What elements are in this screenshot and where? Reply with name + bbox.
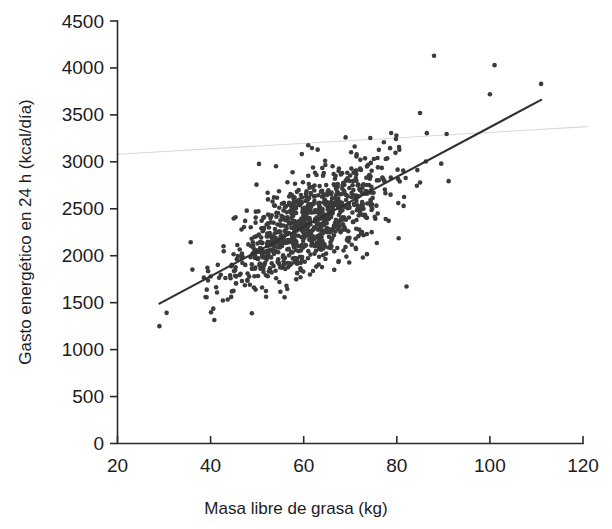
scatter-point xyxy=(285,217,290,222)
scatter-point xyxy=(397,145,402,150)
scatter-point xyxy=(404,284,409,289)
scatter-point xyxy=(253,215,258,220)
scatter-point xyxy=(306,173,311,178)
figure-scatter-plot: 050010001500200025003000350040004500 204… xyxy=(0,0,612,529)
scatter-point xyxy=(292,256,297,261)
scatter-point xyxy=(321,173,326,178)
scatter-point xyxy=(346,239,351,244)
scatter-point xyxy=(290,193,295,198)
scatter-point xyxy=(281,259,286,264)
scatter-point xyxy=(264,222,269,227)
scatter-point xyxy=(294,277,299,282)
scatter-point xyxy=(278,222,283,227)
scatter-point xyxy=(319,207,324,212)
scatter-point xyxy=(395,167,400,172)
scatter-point xyxy=(277,280,282,285)
scatter-point xyxy=(282,295,287,300)
scatter-point xyxy=(269,261,274,266)
scatter-point xyxy=(311,165,316,170)
scatter-point xyxy=(269,214,274,219)
scatter-point xyxy=(373,216,378,221)
scatter-point xyxy=(332,268,337,273)
scatter-point xyxy=(389,131,394,136)
scatter-point xyxy=(264,294,269,299)
x-tick-label: 80 xyxy=(386,455,407,476)
scatter-point xyxy=(257,162,262,167)
scatter-point xyxy=(333,173,338,178)
scatter-point xyxy=(369,168,374,173)
scatter-point xyxy=(369,230,374,235)
scatter-point xyxy=(290,220,295,225)
scatter-point xyxy=(272,203,277,208)
scatter-point xyxy=(296,188,301,193)
scatter-point xyxy=(385,156,390,161)
scatter-point xyxy=(352,203,357,208)
scatter-point xyxy=(235,243,240,248)
scatter-point xyxy=(260,229,265,234)
scatter-point xyxy=(316,262,321,267)
scatter-point xyxy=(233,265,238,270)
scatter-point xyxy=(334,202,339,207)
y-tick-label: 4500 xyxy=(62,11,104,32)
scatter-point xyxy=(334,223,339,228)
scatter-point xyxy=(261,266,266,271)
scatter-point xyxy=(300,152,305,157)
scatter-point xyxy=(351,188,356,193)
scatter-point xyxy=(334,192,339,197)
scatter-point xyxy=(260,252,265,257)
scatter-point xyxy=(289,261,294,266)
scatter-point xyxy=(326,201,331,206)
scatter-point xyxy=(345,170,350,175)
scatter-point xyxy=(265,234,270,239)
scatter-point xyxy=(349,150,354,155)
scatter-point xyxy=(299,235,304,240)
scatter-point xyxy=(221,244,226,249)
scatter-point xyxy=(316,227,321,232)
scatter-point xyxy=(273,227,278,232)
scatter-point xyxy=(215,290,220,295)
scatter-point xyxy=(260,285,265,290)
scatter-point xyxy=(346,206,351,211)
scatter-point xyxy=(312,183,317,188)
scatter-point xyxy=(375,156,380,161)
scatter-point xyxy=(190,267,195,272)
scatter-point xyxy=(539,82,544,87)
scatter-point xyxy=(358,158,363,163)
scatter-point xyxy=(299,248,304,253)
scatter-point xyxy=(260,240,265,245)
scatter-point xyxy=(446,179,451,184)
scatter-point xyxy=(366,163,371,168)
scatter-point xyxy=(274,276,279,281)
y-tick-label: 4000 xyxy=(62,57,104,78)
scatter-point xyxy=(265,250,270,255)
scatter-point xyxy=(330,236,335,241)
scatter-point xyxy=(212,318,217,323)
scatter-point xyxy=(261,216,266,221)
scatter-point xyxy=(278,229,283,234)
scatter-point xyxy=(332,249,337,254)
scatter-point xyxy=(341,181,346,186)
scatter-point xyxy=(388,192,393,197)
scatter-point xyxy=(322,222,327,227)
scatter-point xyxy=(297,202,302,207)
scatter-point xyxy=(382,140,387,145)
scatter-point xyxy=(347,215,352,220)
scatter-point xyxy=(293,181,298,186)
scatter-point xyxy=(277,189,282,194)
scatter-point xyxy=(203,295,208,300)
scatter-point xyxy=(301,269,306,274)
scatter-point xyxy=(293,200,298,205)
scatter-point xyxy=(363,156,368,161)
scatter-point xyxy=(257,232,262,237)
scatter-point xyxy=(343,245,348,250)
scatter-point xyxy=(374,203,379,208)
scatter-point xyxy=(344,254,349,259)
scatter-point xyxy=(234,274,239,279)
scatter-point xyxy=(310,146,315,151)
y-axis-title: Gasto energético en 24 h (kcal/día) xyxy=(16,99,35,365)
scatter-point xyxy=(396,236,401,241)
scatter-point xyxy=(223,276,228,281)
scatter-point xyxy=(351,220,356,225)
scatter-point xyxy=(397,179,402,184)
scatter-point xyxy=(295,261,300,266)
